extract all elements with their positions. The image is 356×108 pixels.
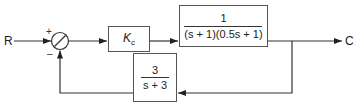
plant-block: 1 (s + 1)(0.5s + 1) xyxy=(179,5,268,47)
feedback-branch-line xyxy=(178,41,292,93)
plus-sign: + xyxy=(46,27,52,37)
diagram-wires xyxy=(0,0,356,108)
feedback-return-line xyxy=(60,51,133,94)
plant-denominator: (s + 1)(0.5s + 1) xyxy=(184,27,262,40)
minus-sign: – xyxy=(47,49,53,59)
feedback-block: 3 s + 3 xyxy=(133,53,177,102)
controller-symbol: K xyxy=(123,31,131,45)
output-label-c: C xyxy=(345,35,354,47)
feedback-denominator: s + 3 xyxy=(143,78,167,91)
plant-numerator: 1 xyxy=(218,12,228,25)
controller-gain: Kc xyxy=(123,31,135,47)
input-label-r: R xyxy=(4,35,13,47)
feedback-transfer-function: 3 s + 3 xyxy=(141,64,169,91)
controller-block: Kc xyxy=(108,26,150,52)
summing-junction xyxy=(52,33,69,50)
feedback-numerator: 3 xyxy=(150,64,160,77)
controller-subscript: c xyxy=(131,38,135,47)
plant-transfer-function: 1 (s + 1)(0.5s + 1) xyxy=(184,12,262,39)
